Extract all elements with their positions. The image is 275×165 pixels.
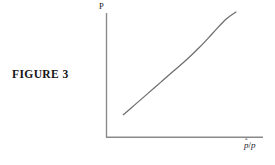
- figure-caption: FIGURE 3: [12, 68, 69, 80]
- x-axis-label-fraction: pˆ/p: [244, 141, 256, 150]
- hat-accent-icon: ˆ: [245, 139, 248, 147]
- p-hat-symbol: pˆ: [244, 141, 249, 150]
- x-axis-denominator: p: [251, 140, 256, 150]
- data-curve: [123, 12, 236, 115]
- plot-area: P pˆ/p: [96, 0, 275, 165]
- x-axis-label: pˆ/p: [244, 141, 256, 150]
- figure-page: FIGURE 3 P pˆ/p: [0, 0, 275, 165]
- y-axis-label: P: [99, 2, 104, 11]
